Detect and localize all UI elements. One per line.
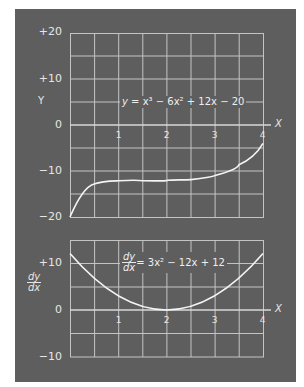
top-xtick-1: 1 [113, 130, 125, 140]
bottom-ylabel-den: dx [27, 283, 41, 293]
top-equation-rhs: = x³ − 6x² + 12x − 20 [131, 96, 244, 107]
bottom-equation-rhs: = 3x² − 12x + 12 [136, 257, 225, 268]
bottom-ytick-minus10: −10 [22, 352, 62, 362]
bottom-xtick-2: 2 [161, 315, 173, 325]
top-xtick-4: 4 [257, 130, 269, 140]
top-equation: y = x³ − 6x² + 12x − 20 [120, 96, 246, 108]
top-ylabel: Y [38, 96, 44, 106]
bottom-equation: dy dx = 3x² − 12x + 12 [120, 252, 227, 273]
bottom-xtick-4: 4 [257, 315, 269, 325]
bottom-ylabel: dy dx [27, 272, 41, 293]
top-xlabel: X [275, 119, 282, 129]
top-ytick-plus10: +10 [22, 74, 62, 84]
bottom-ytick-plus10: +10 [22, 258, 62, 268]
bottom-xtick-3: 3 [209, 315, 221, 325]
top-ytick-plus20: +20 [22, 27, 62, 37]
top-ytick-minus20: −20 [22, 212, 62, 222]
bottom-ytick-0: 0 [22, 305, 62, 315]
top-equation-lhs: y [122, 96, 128, 107]
bottom-xlabel: X [275, 304, 282, 314]
top-ytick-minus10: −10 [22, 166, 62, 176]
top-xtick-3: 3 [209, 130, 221, 140]
top-xtick-2: 2 [161, 130, 173, 140]
bottom-equation-den: dx [122, 263, 136, 273]
top-ytick-0: 0 [22, 120, 62, 130]
bottom-xtick-1: 1 [113, 315, 125, 325]
chart-graphics [0, 0, 304, 387]
